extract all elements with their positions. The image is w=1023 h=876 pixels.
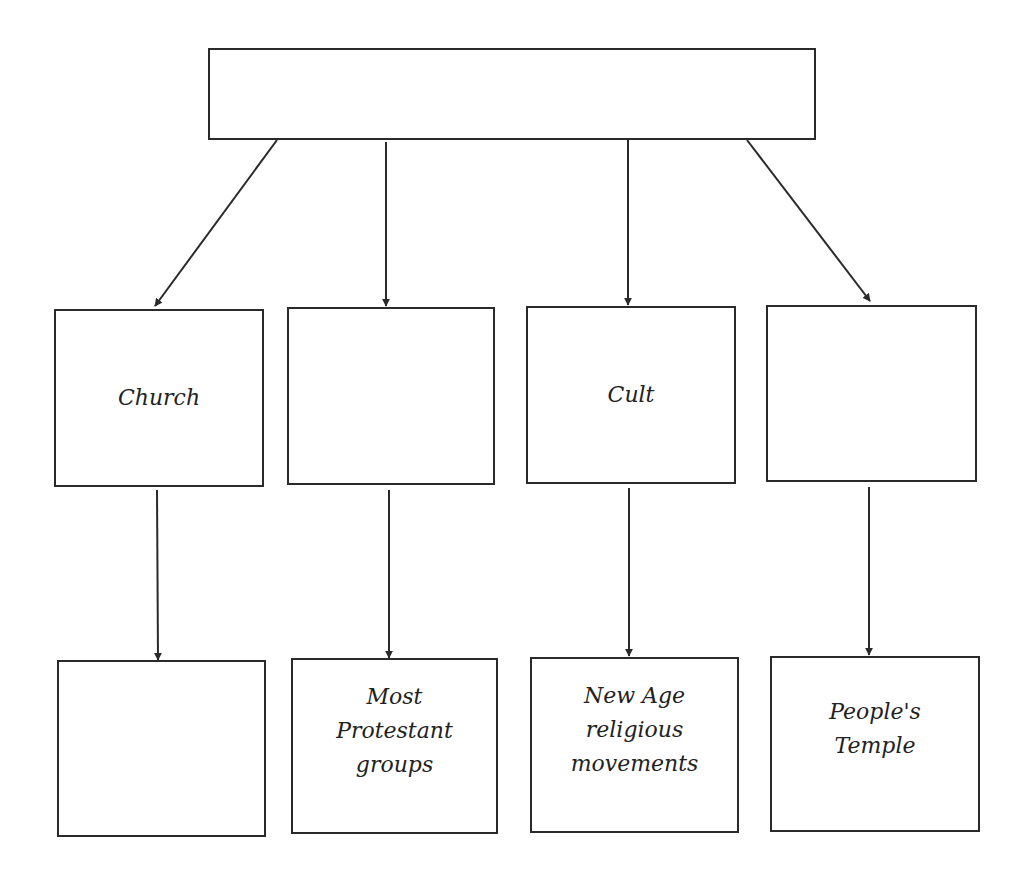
protestant-groups-label: Most Protestant groups	[336, 680, 453, 782]
lower-box-1	[57, 660, 266, 837]
peoples-temple-label: People's Temple	[829, 695, 921, 763]
peoples-temple-box: People's Temple	[770, 656, 980, 832]
concept-diagram: Church Cult Most Protestant groups New A…	[0, 0, 1023, 876]
cult-label: Cult	[608, 378, 655, 412]
arrow-root-to-box4	[747, 140, 870, 301]
cult-box: Cult	[526, 306, 736, 484]
arrow-church-to-lower1	[157, 490, 158, 660]
church-box: Church	[54, 309, 264, 487]
level1-box-4	[766, 305, 977, 482]
arrow-root-to-church	[155, 140, 277, 306]
church-label: Church	[118, 381, 200, 415]
level1-box-2	[287, 307, 495, 485]
root-box	[208, 48, 816, 140]
protestant-groups-box: Most Protestant groups	[291, 658, 498, 834]
new-age-movements-box: New Age religious movements	[530, 657, 739, 833]
new-age-movements-label: New Age religious movements	[571, 679, 699, 781]
